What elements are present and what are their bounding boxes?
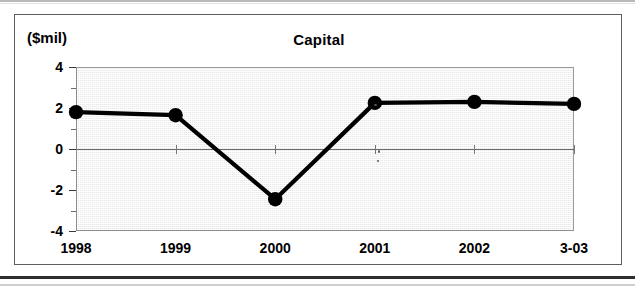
series-line bbox=[76, 102, 574, 199]
line-series-svg: 1998: 1.81999: 1.652000: -2.452001: 2.25… bbox=[76, 67, 574, 231]
scan-speck bbox=[377, 160, 379, 162]
chart-figure-frame: ($mil) Capital 420-2-4 19981999200020012… bbox=[14, 14, 622, 265]
chart-title: Capital bbox=[15, 31, 623, 48]
x-axis-tick bbox=[574, 145, 575, 154]
y-axis-label: 2 bbox=[23, 101, 63, 115]
plot-area: 1998: 1.81999: 1.652000: -2.452001: 2.25… bbox=[76, 67, 574, 231]
data-point-marker: 2002: 2.3 bbox=[467, 95, 481, 109]
data-point-marker: 1998: 1.8 bbox=[69, 105, 83, 119]
data-point-marker: 2001: 2.25 bbox=[368, 96, 382, 110]
y-axis-label: 0 bbox=[23, 142, 63, 156]
x-axis-label: 1998 bbox=[36, 241, 116, 255]
y-axis-label: 4 bbox=[23, 60, 63, 74]
y-axis-tick-major bbox=[69, 190, 76, 191]
x-axis-label: 2001 bbox=[335, 241, 415, 255]
y-axis-tick-major bbox=[69, 231, 76, 232]
x-axis-label: 1999 bbox=[136, 241, 216, 255]
scan-edge-bottom bbox=[0, 276, 635, 279]
x-axis-label: 2000 bbox=[235, 241, 315, 255]
scan-speck bbox=[374, 104, 377, 106]
data-point-marker: 1999: 1.65 bbox=[168, 108, 182, 122]
y-axis-tick-major bbox=[69, 67, 76, 68]
x-axis-label: 2002 bbox=[434, 241, 514, 255]
x-axis-label: 3-03 bbox=[534, 241, 614, 255]
y-axis-tick-major bbox=[69, 149, 76, 150]
data-point-marker: 3-03: 2.2 bbox=[567, 97, 581, 111]
data-point-marker: 2000: -2.45 bbox=[268, 192, 282, 206]
screenshot-page: ($mil) Capital 420-2-4 19981999200020012… bbox=[0, 0, 635, 288]
y-axis-label: -2 bbox=[23, 183, 63, 197]
scan-edge-bottom-secondary bbox=[0, 284, 635, 286]
scan-speck bbox=[378, 150, 380, 153]
scan-edge-top bbox=[0, 0, 635, 2]
scan-edge-top-secondary bbox=[0, 3, 635, 4]
y-axis-label: -4 bbox=[23, 224, 63, 238]
